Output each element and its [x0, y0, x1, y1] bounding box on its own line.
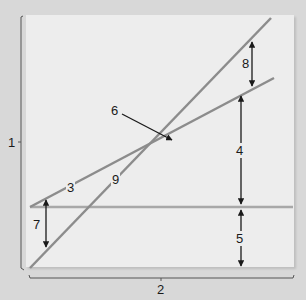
steep-line [30, 18, 271, 268]
x-axis-bracket [29, 275, 294, 281]
steep-line-label: 9 [111, 173, 120, 186]
pointer-label: 6 [111, 104, 118, 117]
lower-gap-label: 5 [236, 231, 243, 246]
middle-gap-label: 4 [236, 143, 243, 158]
left-gap-label: 7 [33, 218, 40, 231]
y-axis-bracket [18, 16, 24, 270]
y-axis-label: 1 [8, 136, 15, 149]
diagram-graphics [0, 0, 306, 300]
x-axis-label: 2 [157, 283, 164, 296]
upper-gap-label: 8 [242, 57, 249, 70]
shallow-line-label: 3 [66, 181, 75, 194]
